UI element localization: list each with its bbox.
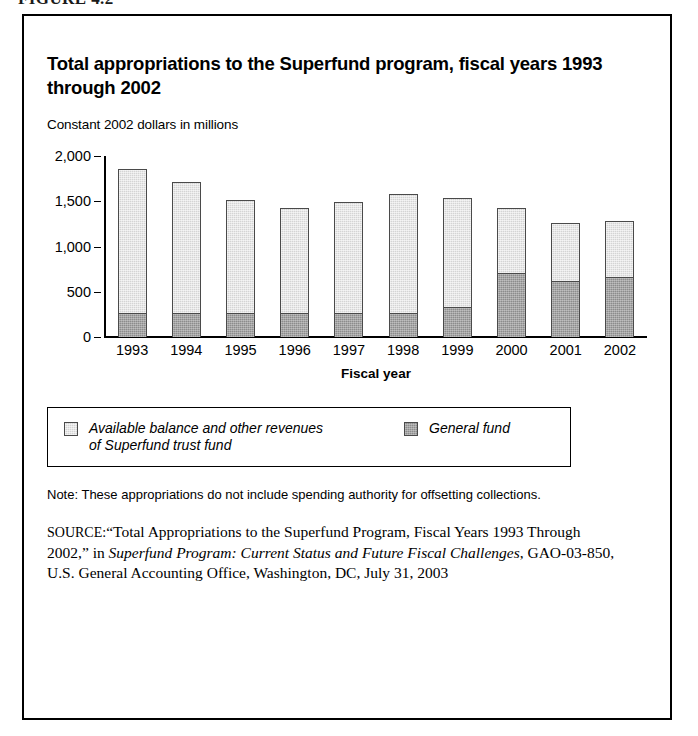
bar-segment-available-balance: [334, 202, 363, 313]
bar-segment-general-fund: [389, 313, 418, 337]
legend-item-label: Available balance and other revenues of …: [89, 420, 323, 454]
light-gray-swatch-icon: [64, 422, 78, 436]
x-axis-tick-label: 1999: [430, 342, 484, 358]
bar-column-1999: [430, 156, 484, 337]
bar-column-1993: [105, 156, 159, 337]
bar-segment-available-balance: [551, 223, 580, 280]
x-axis-tick-label: 1996: [268, 342, 322, 358]
bar-column-1997: [322, 156, 376, 337]
x-axis-tick-label: 2002: [593, 342, 647, 358]
bar-column-1995: [213, 156, 267, 337]
bar-column-1994: [159, 156, 213, 337]
y-axis-tick-mark: [94, 201, 101, 202]
y-axis-tick-mark: [94, 156, 101, 157]
dark-gray-swatch-icon: [404, 422, 418, 436]
x-axis-tick-label: 1997: [322, 342, 376, 358]
bar-column-2000: [484, 156, 538, 337]
y-axis-tick-label: 1,000: [55, 239, 91, 255]
y-axis-tick-label: 500: [67, 284, 91, 300]
x-axis-tick-label: 1993: [105, 342, 159, 358]
bar-segment-general-fund: [497, 273, 526, 337]
legend-item-label: General fund: [429, 420, 510, 437]
source-label: SOURCE:: [47, 525, 106, 540]
y-axis-tick-label: 1,500: [55, 193, 91, 209]
y-axis-tick-label: 0: [83, 329, 91, 345]
source-publication-title: Superfund Program: Current Status and Fu…: [109, 544, 520, 561]
y-axis-tick-mark: [94, 292, 101, 293]
bar-column-2001: [539, 156, 593, 337]
x-axis-tick-labels: 1993199419951996199719981999200020012002: [105, 342, 647, 358]
bar-segment-general-fund: [605, 277, 634, 337]
legend-item-available-balance: Available balance and other revenues of …: [64, 420, 404, 454]
y-axis-tick-mark: [94, 247, 101, 248]
y-axis-tick-label: 2,000: [55, 148, 91, 164]
bar-segment-general-fund: [334, 313, 363, 337]
bar-segment-available-balance: [280, 208, 309, 313]
chart-subtitle: Constant 2002 dollars in millions: [47, 117, 647, 132]
bar-column-2002: [593, 156, 647, 337]
bar-segment-general-fund: [118, 313, 147, 337]
bar-column-1998: [376, 156, 430, 337]
chart-source: SOURCE:“Total Appropriations to the Supe…: [47, 522, 622, 583]
chart-legend: Available balance and other revenues of …: [47, 407, 571, 467]
x-axis-tick-label: 2000: [484, 342, 538, 358]
y-axis-tick-mark: [94, 337, 101, 338]
chart-plot-area: 05001,0001,5002,000 19931994199519961997…: [47, 156, 647, 371]
bar-segment-general-fund: [172, 313, 201, 337]
x-axis-tick-label: 1995: [213, 342, 267, 358]
bar-segment-available-balance: [226, 200, 255, 312]
bar-segment-available-balance: [497, 208, 526, 274]
bar-segment-general-fund: [551, 281, 580, 337]
x-axis-title: Fiscal year: [105, 366, 647, 381]
bar-segment-general-fund: [226, 313, 255, 337]
y-axis: 05001,0001,5002,000: [47, 156, 101, 337]
bar-segment-general-fund: [443, 307, 472, 337]
x-axis-tick-label: 1994: [159, 342, 213, 358]
bar-group: [105, 156, 647, 337]
figure-box: Total appropriations to the Superfund pr…: [22, 14, 672, 720]
legend-item-general-fund: General fund: [404, 420, 510, 437]
x-axis-tick-label: 1998: [376, 342, 430, 358]
bar-segment-available-balance: [389, 194, 418, 313]
chart-title: Total appropriations to the Superfund pr…: [47, 52, 637, 100]
bar-segment-general-fund: [280, 313, 309, 337]
x-axis-tick-label: 2001: [539, 342, 593, 358]
bar-segment-available-balance: [443, 198, 472, 308]
bar-segment-available-balance: [605, 221, 634, 277]
bar-column-1996: [268, 156, 322, 337]
figure-caption: FIGURE 4.2: [18, 0, 114, 9]
chart-note: Note: These appropriations do not includ…: [47, 487, 607, 504]
bar-segment-available-balance: [172, 182, 201, 312]
figure-content: Total appropriations to the Superfund pr…: [47, 36, 647, 583]
bar-segment-available-balance: [118, 169, 147, 312]
